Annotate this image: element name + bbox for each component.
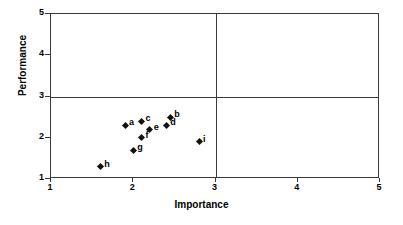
- x-axis-tick-mark: [132, 178, 133, 182]
- y-axis-tick-label: 2: [22, 132, 44, 141]
- x-axis-tick-mark: [215, 178, 216, 182]
- x-axis-tick-label: 3: [200, 183, 230, 192]
- x-axis-tick-mark: [297, 178, 298, 182]
- data-point-label: e: [154, 123, 159, 132]
- plot-area: abcdefghi: [50, 13, 379, 178]
- y-axis-tick-label: 5: [22, 8, 44, 17]
- y-axis-tick-mark: [45, 13, 50, 14]
- diamond-marker-icon: [138, 118, 145, 125]
- x-axis-tick-label: 2: [117, 183, 147, 192]
- diamond-marker-icon: [97, 163, 104, 170]
- y-axis-tick-mark: [45, 54, 50, 55]
- quadrant-line-vertical: [216, 14, 217, 177]
- y-axis-title: Performance: [17, 26, 28, 106]
- diamond-marker-icon: [138, 134, 145, 141]
- data-point-label: c: [145, 114, 150, 123]
- x-axis-tick-label: 4: [282, 183, 312, 192]
- data-point-label: d: [170, 118, 176, 127]
- x-axis-tick-mark: [379, 178, 380, 182]
- data-point-label: g: [137, 143, 143, 152]
- y-axis-tick-label: 1: [22, 173, 44, 182]
- data-point-label: i: [203, 135, 206, 144]
- x-axis-title: Importance: [0, 199, 403, 210]
- importance-performance-scatter-chart: abcdefghi 12345 12345 Performance Import…: [0, 0, 403, 225]
- diamond-marker-icon: [163, 122, 170, 129]
- data-point-label: h: [104, 160, 110, 169]
- diamond-marker-icon: [121, 122, 128, 129]
- diamond-marker-icon: [130, 147, 137, 154]
- y-axis-tick-mark: [45, 137, 50, 138]
- y-axis-tick-mark: [45, 96, 50, 97]
- x-axis-tick-label: 5: [364, 183, 394, 192]
- data-point-label: a: [129, 118, 134, 127]
- data-point-label: f: [145, 131, 148, 140]
- x-axis-tick-label: 1: [35, 183, 65, 192]
- diamond-marker-icon: [196, 138, 203, 145]
- quadrant-line-horizontal: [51, 97, 378, 98]
- x-axis-tick-mark: [50, 178, 51, 182]
